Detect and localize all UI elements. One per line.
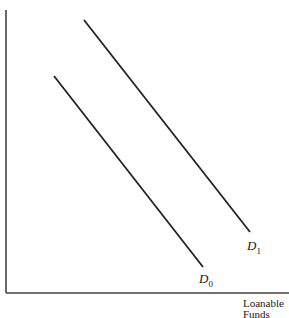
- demand-curve-d0: [54, 76, 203, 267]
- d1-label-main: D: [247, 238, 256, 253]
- x-axis-label: Loanable Funds: [243, 298, 284, 318]
- d1-label: D1: [247, 238, 261, 256]
- x-axis-label-line2: Funds: [243, 309, 284, 318]
- d1-label-sub: 1: [256, 246, 261, 256]
- demand-shift-diagram: [0, 0, 289, 318]
- demand-curve-d1: [84, 20, 250, 232]
- d0-label: D0: [199, 271, 213, 289]
- d0-label-main: D: [199, 271, 208, 286]
- d0-label-sub: 0: [208, 279, 213, 289]
